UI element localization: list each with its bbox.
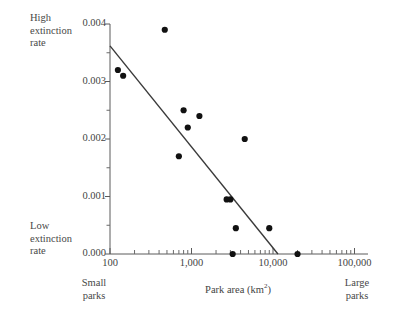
scatter-plot <box>0 0 408 316</box>
small-parks-label: Small parks <box>64 277 124 302</box>
x-tick-label: 1,000 <box>162 257 222 268</box>
data-point <box>120 73 126 79</box>
data-point <box>185 124 191 130</box>
trend-line <box>110 46 278 254</box>
data-point <box>266 225 272 231</box>
x-tick-label: 10,000 <box>243 257 303 268</box>
x-tick-label: 100 <box>80 257 140 268</box>
data-point <box>162 27 168 33</box>
data-point <box>227 196 233 202</box>
data-point <box>115 67 121 73</box>
regression-line <box>110 46 278 254</box>
large-parks-label: Large parks <box>327 277 387 302</box>
data-point <box>242 136 248 142</box>
data-points <box>115 27 301 257</box>
x-tick-label: 100,000 <box>325 257 385 268</box>
data-point <box>233 225 239 231</box>
x-axis-title-text: Park area (km <box>205 284 264 295</box>
x-axis-title-paren: ) <box>267 284 271 295</box>
data-point <box>176 153 182 159</box>
figure-container: High extinction rate Low extinction rate… <box>0 0 408 316</box>
y-axis-ticks <box>105 24 110 254</box>
x-axis-title: Park area (km2) <box>168 280 308 296</box>
data-point <box>230 251 236 257</box>
data-point <box>196 113 202 119</box>
axes <box>110 24 368 254</box>
data-point <box>181 107 187 113</box>
